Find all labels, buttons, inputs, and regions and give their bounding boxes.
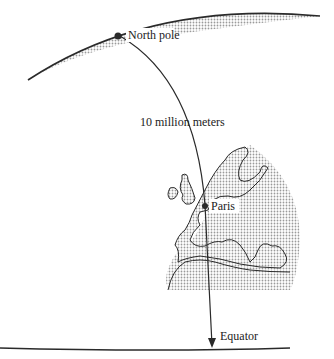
britain-island xyxy=(180,174,195,204)
polar-cap-region xyxy=(28,13,320,80)
arrowhead-icon xyxy=(208,338,216,348)
meridian-diagram: North pole 10 million meters Paris Equat… xyxy=(0,0,334,359)
north-pole-label: North pole xyxy=(128,28,180,42)
equator-arc xyxy=(0,348,290,350)
paris-label: Paris xyxy=(211,199,235,213)
ireland-island xyxy=(168,188,178,200)
equator-label: Equator xyxy=(220,329,258,343)
distance-label: 10 million meters xyxy=(140,115,225,129)
paris-dot xyxy=(202,203,208,209)
north-pole-dot xyxy=(115,33,122,40)
meridian-line xyxy=(120,36,212,345)
